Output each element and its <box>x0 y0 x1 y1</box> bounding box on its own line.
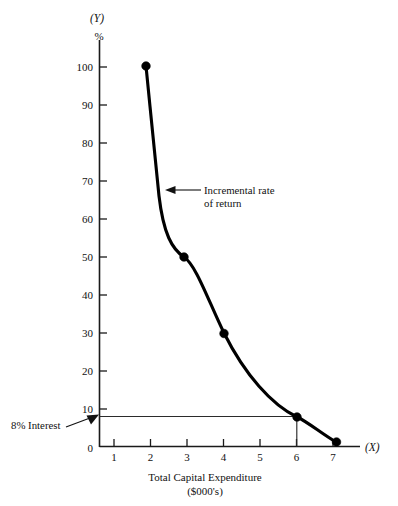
x-tick-label-6: 6 <box>294 451 300 463</box>
y-tick-label-80: 80 <box>82 137 94 149</box>
y-tick-label-50: 50 <box>82 251 94 263</box>
y-tick-label-90: 90 <box>82 99 94 111</box>
chart-svg: 100 90 80 70 60 50 40 30 20 10 0 (Y) % 1… <box>0 0 398 506</box>
y-tick-label-10: 10 <box>82 403 94 415</box>
y-tick-label-60: 60 <box>82 213 94 225</box>
x-tick-label-1: 1 <box>111 451 117 463</box>
data-point-3 <box>220 329 229 338</box>
y-tick-label-30: 30 <box>82 327 94 339</box>
data-point-2 <box>180 253 189 262</box>
y-axis-name-label: (Y) <box>90 12 104 25</box>
data-point-5 <box>332 438 341 447</box>
data-point-1 <box>142 62 151 71</box>
x-tick-label-3: 3 <box>184 451 190 463</box>
y-tick-label-100: 100 <box>77 61 94 73</box>
x-axis-title: Total Capital Expenditure <box>148 471 262 483</box>
y-tick-label-0: 0 <box>88 442 94 454</box>
x-axis-subtitle: ($000's) <box>187 485 223 498</box>
y-tick-label-40: 40 <box>82 289 94 301</box>
x-tick-label-5: 5 <box>257 451 263 463</box>
y-axis-unit-label: % <box>94 30 103 42</box>
x-tick-label-2: 2 <box>148 451 154 463</box>
interest-callout-label: 8% Interest <box>11 419 60 431</box>
y-tick-label-20: 20 <box>82 365 94 377</box>
x-tick-label-4: 4 <box>221 451 227 463</box>
x-axis-name-label: (X) <box>365 441 380 454</box>
data-point-4 <box>293 413 302 422</box>
x-tick-label-7: 7 <box>330 451 336 463</box>
y-tick-label-70: 70 <box>82 175 94 187</box>
curve-callout-line2: of return <box>204 197 242 209</box>
curve-callout-line1: Incremental rate <box>204 184 275 196</box>
chart-figure: 100 90 80 70 60 50 40 30 20 10 0 (Y) % 1… <box>0 0 398 506</box>
